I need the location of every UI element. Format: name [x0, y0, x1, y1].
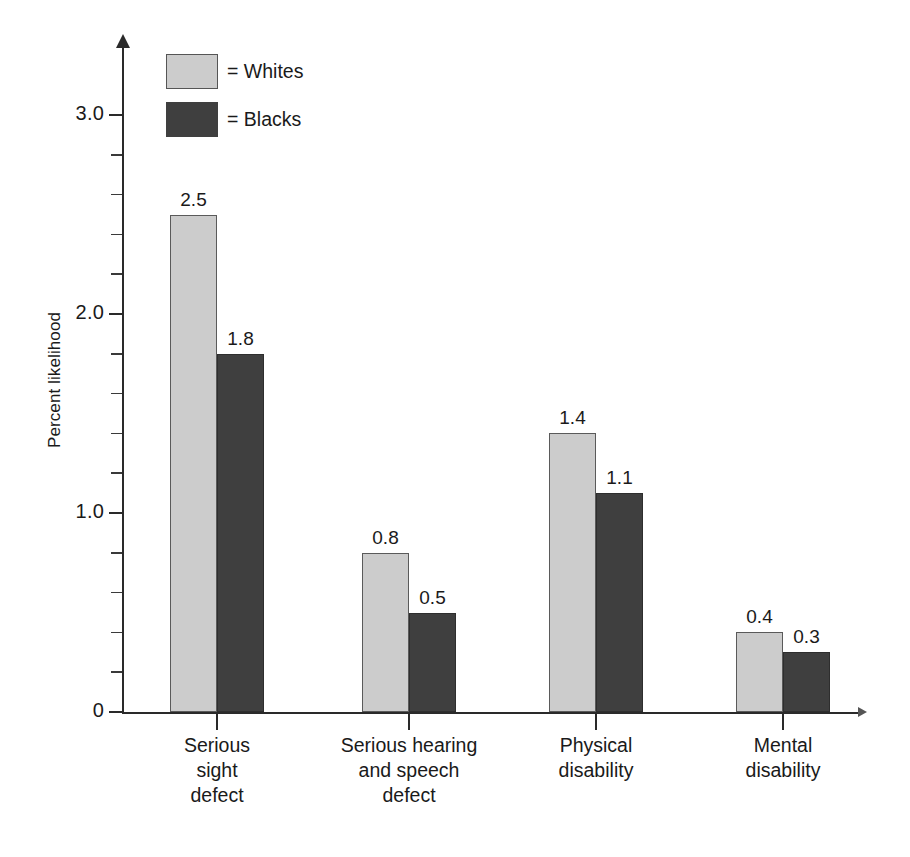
- x-axis-label-line: Physical: [559, 733, 634, 758]
- bar-value-label: 0.8: [351, 527, 420, 549]
- bar-blacks-4: [783, 652, 830, 712]
- x-axis-label-3: Physicaldisability: [559, 733, 634, 783]
- x-axis-label-2: Serious hearingand speechdefect: [341, 733, 478, 808]
- bar-whites-2: [362, 553, 409, 712]
- bar-value-label: 1.1: [585, 467, 654, 489]
- bar-value-label: 0.5: [398, 587, 467, 609]
- x-tick-category: [782, 714, 784, 730]
- x-tick-category: [595, 714, 597, 730]
- chart-page: Percent likelihood 01.02.03.0 = Whites =…: [0, 0, 910, 857]
- x-axis-label-line: and speech: [341, 758, 478, 783]
- bar-value-label: 2.5: [159, 189, 228, 211]
- x-axis-label-line: sight: [184, 758, 250, 783]
- plot-area: Percent likelihood 01.02.03.0 = Whites =…: [0, 0, 910, 857]
- x-axis-label-line: Serious: [184, 733, 250, 758]
- bars-layer: 2.51.80.80.51.41.10.40.3: [0, 0, 910, 857]
- x-axis-label-line: defect: [184, 783, 250, 808]
- bar-blacks-1: [217, 354, 264, 712]
- x-axis-label-line: Mental: [746, 733, 821, 758]
- x-tick-category: [408, 714, 410, 730]
- x-tick-category: [216, 714, 218, 730]
- x-axis-label-1: Serioussightdefect: [184, 733, 250, 808]
- x-axis-label-line: Serious hearing: [341, 733, 478, 758]
- bar-blacks-3: [596, 493, 643, 712]
- bar-value-label: 1.4: [538, 407, 607, 429]
- bar-whites-1: [170, 215, 217, 713]
- bar-value-label: 0.3: [772, 626, 841, 648]
- x-axis-label-4: Mentaldisability: [746, 733, 821, 783]
- x-axis-label-line: disability: [559, 758, 634, 783]
- x-axis-label-line: defect: [341, 783, 478, 808]
- bar-value-label: 1.8: [206, 328, 275, 350]
- x-axis-label-line: disability: [746, 758, 821, 783]
- bar-value-label: 0.4: [725, 606, 794, 628]
- bar-blacks-2: [409, 613, 456, 713]
